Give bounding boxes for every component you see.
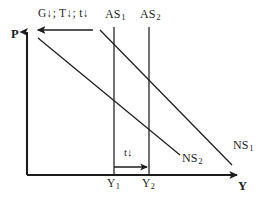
ns1-curve-label: NS1 [233, 139, 254, 153]
y-axis-label: Y [238, 180, 247, 193]
as1-label-base: AS [105, 7, 121, 21]
as2-label-base: AS [140, 7, 156, 21]
ns2-label-base: NS [182, 151, 198, 165]
as1-label-subscript: 1 [121, 12, 126, 22]
y2-tick-label: Y2 [142, 178, 155, 192]
ns1-label-base: NS [233, 138, 249, 152]
as2-label-subscript: 2 [156, 12, 161, 22]
y1-tick-label: Y1 [107, 178, 120, 192]
as-ns-diagram [0, 0, 270, 210]
as2-curve-label: AS2 [140, 8, 161, 22]
y2-label-subscript: 2 [150, 182, 155, 191]
ns2-curve [38, 38, 180, 155]
ns2-label-subscript: 2 [198, 156, 203, 166]
as1-curve-label: AS1 [105, 8, 126, 22]
ns1-curve [100, 30, 232, 165]
ns1-label-subscript: 1 [249, 143, 254, 153]
policy-annotation-label: G↓; T↓; t↓ [38, 8, 89, 20]
figure-canvas: P Y G↓; T↓; t↓ AS1 AS2 NS2 NS1 t↓ Y1 Y2 [0, 0, 270, 210]
ns2-curve-label: NS2 [182, 152, 203, 166]
p-axis-label: P [11, 28, 19, 41]
tax-shift-label: t↓ [124, 147, 133, 158]
y1-label-subscript: 1 [115, 182, 120, 191]
